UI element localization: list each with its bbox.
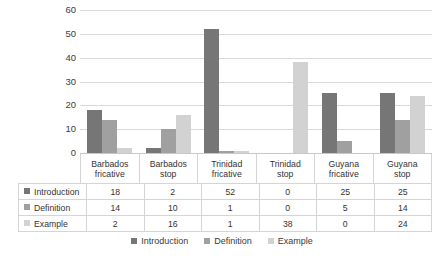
y-axis-tick-20: 20 bbox=[44, 100, 76, 110]
table-cell: 2 bbox=[144, 184, 202, 200]
table-row-label: Introduction bbox=[34, 187, 79, 197]
bar[interactable] bbox=[87, 110, 102, 153]
bar-group bbox=[80, 10, 139, 153]
category-label-line: Guyana bbox=[329, 159, 359, 170]
table-row-header: Example bbox=[19, 216, 87, 232]
table-row: Example216138024 bbox=[19, 216, 432, 232]
category-label-line: fricative bbox=[329, 169, 359, 180]
category-label-line: Barbados bbox=[91, 159, 128, 170]
table-cell: 0 bbox=[259, 184, 317, 200]
table-row: Introduction1825202525 bbox=[19, 184, 432, 200]
table-cell: 14 bbox=[374, 200, 432, 216]
y-axis-tick-60: 60 bbox=[44, 5, 76, 15]
table-row-label: Example bbox=[34, 219, 68, 229]
legend-swatch-icon bbox=[268, 238, 274, 244]
bar-group bbox=[373, 10, 432, 153]
table-cell: 38 bbox=[259, 216, 317, 232]
series-swatch-icon bbox=[24, 220, 30, 226]
category-label-line: Trinidad bbox=[211, 159, 242, 170]
legend-item[interactable]: Definition bbox=[204, 236, 252, 246]
category-label-line: fricative bbox=[95, 169, 125, 180]
category-label-line: fricative bbox=[212, 169, 242, 180]
table-cell: 16 bbox=[144, 216, 202, 232]
series-swatch-icon bbox=[24, 204, 30, 210]
table-cell: 10 bbox=[144, 200, 202, 216]
table-row: Definition141010514 bbox=[19, 200, 432, 216]
table-cell: 25 bbox=[374, 184, 432, 200]
bar-group bbox=[197, 10, 256, 153]
bar[interactable] bbox=[322, 93, 337, 153]
category-label-line: stop bbox=[277, 169, 293, 180]
y-axis-tick-0: 0 bbox=[44, 148, 76, 158]
category-label-line: Trinidad bbox=[270, 159, 301, 170]
table-cell: 0 bbox=[259, 200, 317, 216]
bar-chart-with-data-table: 6050403020100 BarbadosfricativeBarbadoss… bbox=[0, 0, 444, 257]
bar[interactable] bbox=[176, 115, 191, 153]
category-axis-labels: BarbadosfricativeBarbadosstopTrinidadfri… bbox=[80, 153, 432, 184]
y-axis-tick-50: 50 bbox=[44, 29, 76, 39]
table-cell: 1 bbox=[202, 200, 260, 216]
legend-item[interactable]: Introduction bbox=[131, 236, 188, 246]
bar[interactable] bbox=[204, 29, 219, 153]
legend-swatch-icon bbox=[204, 238, 210, 244]
table-cell: 24 bbox=[374, 216, 432, 232]
y-axis: 6050403020100 bbox=[44, 10, 76, 156]
table-cell: 18 bbox=[87, 184, 145, 200]
y-axis-tick-40: 40 bbox=[44, 53, 76, 63]
table-cell: 25 bbox=[317, 184, 375, 200]
legend-swatch-icon bbox=[131, 238, 137, 244]
bar[interactable] bbox=[410, 96, 425, 153]
bar[interactable] bbox=[102, 120, 117, 153]
table-cell: 2 bbox=[87, 216, 145, 232]
bar-groups bbox=[80, 10, 432, 153]
table-cell: 5 bbox=[317, 200, 375, 216]
plot-area: 6050403020100 BarbadosfricativeBarbadoss… bbox=[0, 0, 444, 176]
y-axis-tick-30: 30 bbox=[44, 77, 76, 87]
category-label-line: Guyana bbox=[387, 159, 417, 170]
legend-label: Introduction bbox=[141, 236, 188, 246]
category-label-line: Barbados bbox=[150, 159, 187, 170]
bar[interactable] bbox=[293, 62, 308, 153]
series-swatch-icon bbox=[24, 188, 30, 194]
bar[interactable] bbox=[380, 93, 395, 153]
table-cell: 14 bbox=[87, 200, 145, 216]
table-row-header: Definition bbox=[19, 200, 87, 216]
bar[interactable] bbox=[395, 120, 410, 153]
bar[interactable] bbox=[161, 129, 176, 153]
category-label: Guyanastop bbox=[374, 154, 433, 184]
bar-group bbox=[315, 10, 374, 153]
bar-group bbox=[256, 10, 315, 153]
data-table-body: Introduction1825202525Definition14101051… bbox=[19, 184, 432, 232]
y-axis-tick-10: 10 bbox=[44, 124, 76, 134]
bar-group bbox=[139, 10, 198, 153]
table-cell: 1 bbox=[202, 216, 260, 232]
legend-item[interactable]: Example bbox=[268, 236, 313, 246]
table-cell: 52 bbox=[202, 184, 260, 200]
table-cell: 0 bbox=[317, 216, 375, 232]
data-table: Introduction1825202525Definition14101051… bbox=[18, 183, 432, 232]
table-row-label: Definition bbox=[34, 203, 70, 213]
category-label-line: stop bbox=[394, 169, 410, 180]
legend-label: Definition bbox=[214, 236, 252, 246]
bar[interactable] bbox=[337, 141, 352, 153]
category-label-line: stop bbox=[160, 169, 176, 180]
chart-legend: IntroductionDefinitionExample bbox=[0, 236, 444, 246]
legend-label: Example bbox=[278, 236, 313, 246]
category-label: Barbadosstop bbox=[140, 154, 199, 184]
table-row-header: Introduction bbox=[19, 184, 87, 200]
category-label: Barbadosfricative bbox=[80, 154, 140, 184]
category-label: Guyanafricative bbox=[315, 154, 374, 184]
category-label: Trinidadfricative bbox=[198, 154, 257, 184]
category-label: Trinidadstop bbox=[257, 154, 316, 184]
